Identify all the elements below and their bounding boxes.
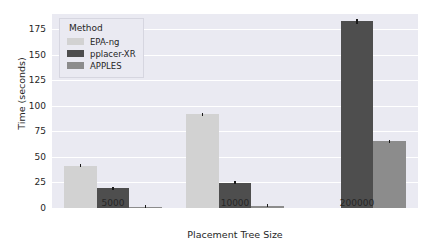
legend-swatch	[67, 50, 84, 57]
legend-label: EPA-ng	[90, 37, 119, 47]
x-axis-label: Placement Tree Size	[52, 229, 418, 240]
y-tick-label: 175	[8, 24, 46, 34]
gridline	[52, 208, 418, 209]
y-tick-label: 125	[8, 75, 46, 85]
legend-label: APPLES	[90, 61, 122, 71]
legend-item: APPLES	[67, 60, 136, 71]
legend-items: EPA-ngpplacer-XRAPPLES	[67, 36, 136, 71]
legend-title: Method	[69, 23, 136, 33]
bar-chart-figure: Time (seconds) Placement Tree Size 02550…	[0, 0, 423, 246]
legend-label: pplacer-XR	[90, 49, 136, 59]
x-tick-label: 5000	[102, 198, 125, 208]
legend-swatch	[67, 38, 84, 45]
y-tick-label: 0	[8, 203, 46, 213]
y-tick-label: 100	[8, 101, 46, 111]
y-tick-label: 50	[8, 152, 46, 162]
legend-item: pplacer-XR	[67, 48, 136, 59]
y-tick-label: 150	[8, 50, 46, 60]
x-tick-label: 10000	[221, 198, 250, 208]
legend-swatch	[67, 62, 84, 69]
y-tick-label: 25	[8, 177, 46, 187]
legend: Method EPA-ngpplacer-XRAPPLES	[59, 18, 144, 78]
legend-item: EPA-ng	[67, 36, 136, 47]
x-tick-label: 200000	[340, 198, 374, 208]
y-tick-label: 75	[8, 126, 46, 136]
y-axis-label: Time (seconds)	[16, 29, 27, 159]
